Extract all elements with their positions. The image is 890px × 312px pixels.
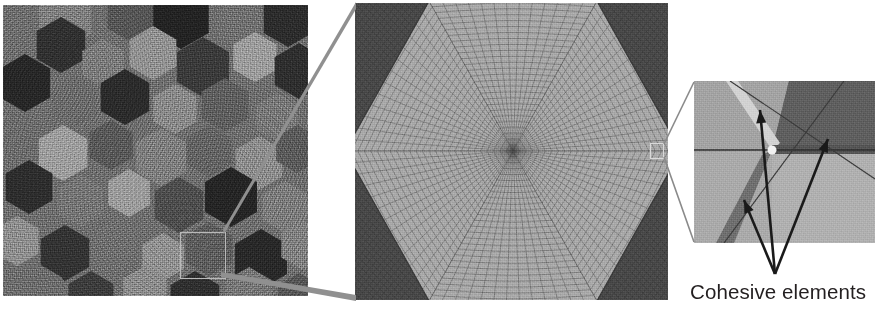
- cohesive-arrow-head: [819, 139, 828, 153]
- zoom-connector-lower: [221, 272, 356, 301]
- junction-connector-upper: [664, 82, 694, 144]
- cohesive-arrow-shaft: [775, 139, 828, 274]
- cohesive-element-arrows: [744, 110, 828, 274]
- cohesive-arrow-head: [744, 200, 754, 214]
- cohesive-arrow-shaft: [760, 110, 775, 274]
- cohesive-elements-label: Cohesive elements: [690, 281, 885, 303]
- junction-connector-lower: [664, 157, 694, 242]
- annotation-overlay: [0, 0, 890, 312]
- multiscale-microstructure-figure: Cohesive elements: [0, 0, 890, 312]
- zoom-connector-upper: [223, 2, 356, 234]
